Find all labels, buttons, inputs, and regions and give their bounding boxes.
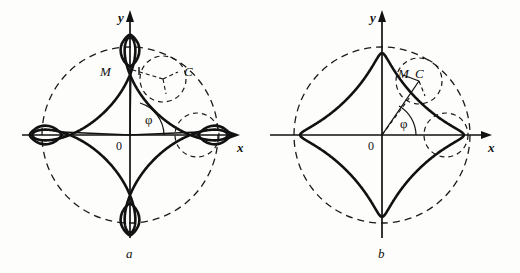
x-axis-label-b: x — [487, 140, 495, 155]
radius-CM-a — [133, 70, 163, 79]
point-label-M-b: M — [397, 66, 410, 81]
point-label-C-b: C — [415, 66, 424, 81]
x-axis-arrow-b — [481, 131, 492, 139]
panel-b: x y 0 M C φ b — [260, 0, 520, 273]
radius-C-pointer-a — [163, 72, 178, 79]
radius-C-leg-b — [419, 81, 425, 96]
y-axis-label-a: y — [116, 10, 124, 25]
origin-label-b: 0 — [368, 139, 374, 153]
angle-label-phi-a: φ — [145, 112, 153, 127]
x-axis-label-a: x — [236, 140, 244, 155]
panel-a: x y 0 M C φ a — [0, 0, 260, 273]
y-axis-arrow-a — [126, 10, 134, 22]
origin-label-a: 0 — [116, 139, 122, 153]
angle-label-phi-b: φ — [400, 116, 408, 131]
point-label-C-a: C — [184, 64, 193, 79]
y-axis-label-b: y — [368, 10, 376, 25]
panel-caption-a: a — [126, 246, 133, 261]
point-label-M-a: M — [99, 64, 112, 79]
radius-C-leg-a — [163, 79, 166, 94]
panel-caption-b: b — [378, 246, 385, 261]
figure-container: x y 0 M C φ a — [0, 0, 520, 273]
y-axis-arrow-b — [378, 10, 386, 22]
